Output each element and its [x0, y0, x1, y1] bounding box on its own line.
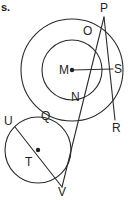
label-t: T: [25, 156, 32, 168]
center-m: [70, 68, 74, 72]
label-v: V: [58, 186, 66, 198]
geometry-figure-canvas: s. POMSNQURTV: [0, 0, 135, 200]
label-r: R: [112, 122, 121, 134]
label-u: U: [4, 115, 13, 127]
label-s: S: [114, 63, 122, 75]
segment-u-v: [15, 127, 62, 187]
label-p: P: [100, 2, 108, 14]
label-m: M: [59, 64, 69, 76]
label-q: Q: [41, 110, 50, 122]
label-o: O: [83, 25, 92, 37]
center-t: [36, 148, 40, 152]
segment-m-s: [72, 69, 113, 70]
circles-group: [5, 19, 123, 183]
geometry-diagram-svg: [0, 0, 135, 200]
label-n: N: [71, 91, 80, 103]
